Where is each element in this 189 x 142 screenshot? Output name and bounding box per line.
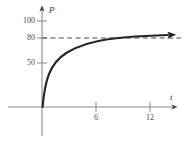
y-tick-label-50: 50 (17, 58, 35, 67)
y-tick-label-80: 80 (17, 33, 35, 42)
function-graph-figure: 100 80 50 6 12 P t (0, 0, 189, 142)
x-axis-title: t (170, 92, 173, 102)
x-tick-label-6: 6 (87, 113, 105, 122)
growth-curve (43, 35, 168, 107)
x-tick-label-12: 12 (141, 113, 159, 122)
y-tick-label-100: 100 (17, 16, 35, 25)
y-axis-title: P (49, 5, 55, 15)
